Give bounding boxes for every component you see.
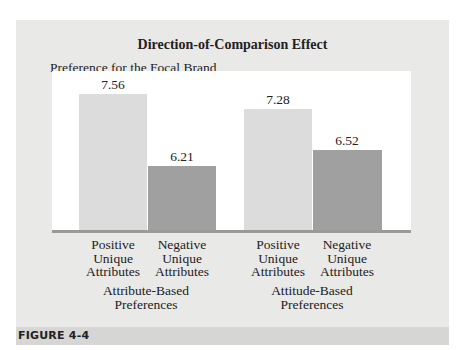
- x-tick-label: Negative Unique Attributes: [142, 238, 222, 279]
- chart-title: Direction-of-Comparison Effect: [16, 37, 449, 53]
- bar-attitude-positive: [244, 109, 312, 230]
- group-label-attribute-based: Attribute-Based Preferences: [66, 284, 226, 311]
- figure-panel: Direction-of-Comparison Effect Preferenc…: [16, 20, 449, 327]
- value-label: 6.21: [148, 149, 216, 165]
- figure-caption-bar: FIGURE 4-4: [16, 327, 449, 345]
- x-tick-label: Positive Unique Attributes: [238, 238, 318, 279]
- bar-attribute-negative: [148, 166, 216, 230]
- bar-attribute-positive: [79, 94, 147, 230]
- value-label: 6.52: [313, 133, 381, 149]
- x-axis-baseline: [52, 230, 411, 233]
- value-label: 7.28: [244, 92, 312, 108]
- x-tick-label: Negative Unique Attributes: [307, 238, 387, 279]
- value-label: 7.56: [79, 77, 147, 93]
- group-label-attitude-based: Attitude-Based Preferences: [232, 284, 392, 311]
- figure-caption: FIGURE 4-4: [18, 329, 89, 342]
- bar-attitude-negative: [313, 150, 382, 230]
- x-tick-label: Positive Unique Attributes: [73, 238, 153, 279]
